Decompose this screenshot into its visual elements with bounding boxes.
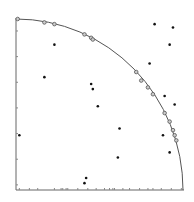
open-circle-point [163, 111, 167, 115]
filled-dot-point [168, 43, 171, 46]
filled-dot-point [162, 134, 165, 137]
filled-dot-point [43, 76, 46, 79]
filled-dot-point [92, 88, 95, 91]
open-circle-point [43, 21, 47, 25]
open-circle-point [168, 120, 172, 124]
axes [16, 18, 184, 190]
filled-dot-point [173, 103, 176, 106]
filled-dot-point [85, 177, 88, 180]
open-circle-point [53, 22, 57, 26]
filled-dot-point [118, 127, 121, 130]
data-points [16, 17, 178, 184]
filled-dot-point [172, 26, 175, 29]
quarter-circle-arc [16, 19, 183, 190]
filled-dot-point [90, 83, 93, 86]
axis-rug-ticks [16, 31, 181, 190]
open-circle-point [171, 128, 175, 132]
filled-dot-point [168, 151, 171, 154]
open-circle-point [16, 17, 20, 21]
open-circle-point [151, 92, 155, 96]
filled-dot-point [97, 105, 100, 108]
open-circle-point [139, 79, 143, 83]
open-circle-point [83, 33, 87, 37]
filled-dot-point [53, 43, 56, 46]
open-circle-point [134, 70, 138, 74]
open-circle-point [173, 133, 177, 137]
filled-dot-point [148, 62, 151, 65]
scatter-plot [0, 0, 194, 202]
filled-dot-point [163, 95, 166, 98]
filled-dot-point [18, 134, 21, 137]
open-circle-point [146, 86, 150, 90]
filled-dot-point [153, 23, 156, 26]
filled-dot-point [83, 182, 86, 185]
open-circle-point [91, 38, 95, 42]
open-circle-point [175, 139, 179, 143]
filled-dot-point [117, 156, 120, 159]
reference-arc [16, 19, 183, 190]
